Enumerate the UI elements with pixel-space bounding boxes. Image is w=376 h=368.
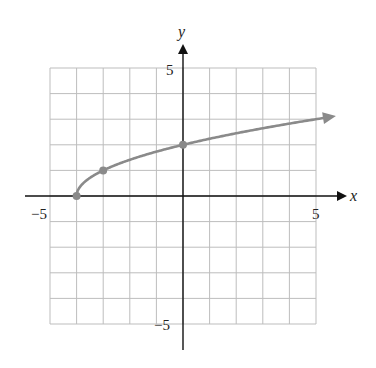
y-min-tick-label: −5 xyxy=(154,317,170,333)
x-min-tick-label: −5 xyxy=(31,206,47,222)
x-max-tick-label: 5 xyxy=(312,206,320,222)
data-point xyxy=(179,141,187,149)
y-axis-label: y xyxy=(176,23,186,41)
data-point xyxy=(73,192,81,200)
graph: x y −5 5 5 −5 xyxy=(0,0,376,368)
curve-path xyxy=(77,117,332,196)
curve-arrow-icon xyxy=(322,112,336,124)
y-max-tick-label: 5 xyxy=(166,62,174,78)
function-curve xyxy=(77,112,336,196)
x-axis-label: x xyxy=(349,187,357,204)
y-axis-arrow-icon xyxy=(178,44,188,54)
data-point xyxy=(99,166,107,174)
x-axis-arrow-icon xyxy=(337,191,347,201)
